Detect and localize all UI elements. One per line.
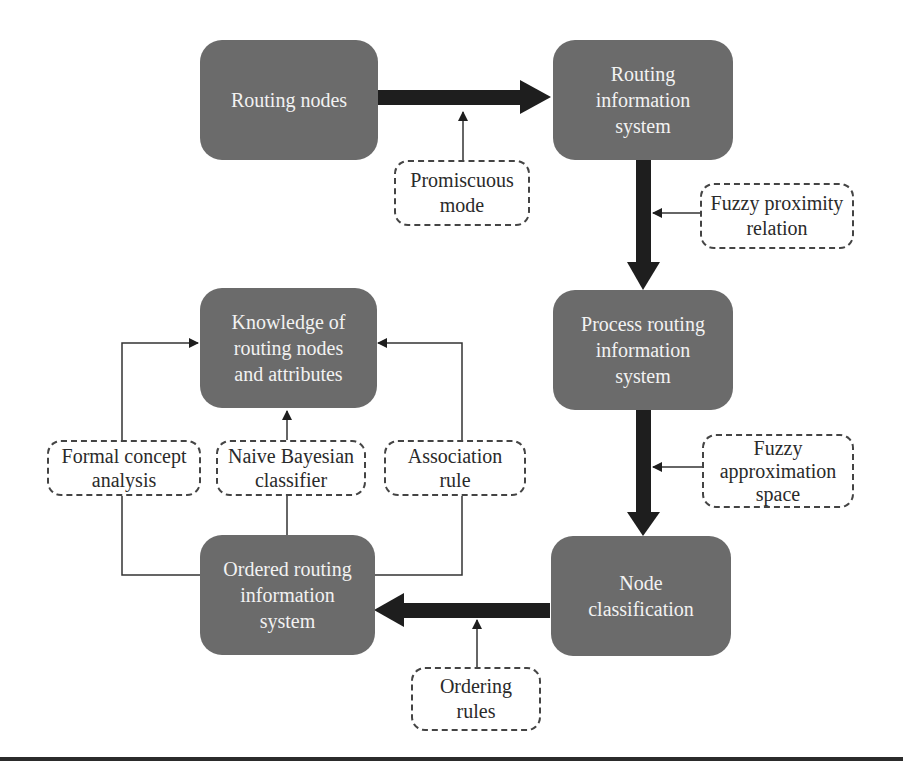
label-naive-bayesian-classifier: Naive Bayesian classifier (216, 440, 366, 496)
label-promiscuous-mode: Promiscuous mode (394, 160, 530, 226)
node-node-classification: Node classification (551, 536, 731, 656)
thick-arrow-down-icon (627, 410, 660, 536)
thick-arrow-left-icon (374, 593, 550, 627)
node-routing-nodes: Routing nodes (200, 40, 378, 160)
node-routing-information-system: Routing information system (553, 40, 733, 160)
connector-layer (0, 0, 903, 779)
label-fuzzy-approximation-space: Fuzzy approximation space (702, 434, 854, 508)
thick-arrow-right-icon (378, 80, 551, 114)
label-fuzzy-proximity-relation: Fuzzy proximity relation (700, 183, 854, 249)
node-knowledge-of-routing-nodes: Knowledge of routing nodes and attribute… (200, 288, 377, 408)
node-ordered-routing-information-system: Ordered routing information system (200, 535, 375, 655)
label-association-rule: Association rule (384, 440, 526, 496)
bottom-rule-divider (0, 757, 903, 761)
label-ordering-rules: Ordering rules (411, 667, 541, 731)
node-process-routing-information-system: Process routing information system (553, 290, 733, 410)
label-formal-concept-analysis: Formal concept analysis (47, 440, 201, 496)
thick-arrow-down-icon (627, 160, 660, 290)
